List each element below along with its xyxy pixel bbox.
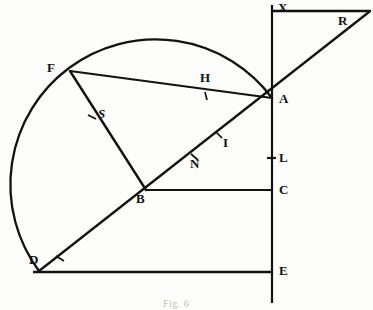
point-label-a: A <box>279 92 289 105</box>
point-label-r: R <box>338 14 348 27</box>
point-label-b: B <box>136 192 145 205</box>
point-label-h: H <box>200 71 210 84</box>
point-label-f: F <box>47 61 55 74</box>
chord-fa-line <box>70 71 272 98</box>
chord-fb-line <box>70 71 146 190</box>
geometric-figure: X R F A S H I N L B C D E Fig. 6 <box>0 0 373 310</box>
point-label-e: E <box>279 264 288 277</box>
tick-s-mark <box>88 115 96 119</box>
main-diagonal-line <box>39 12 369 271</box>
point-label-n: N <box>190 157 200 170</box>
figure-drawing-canvas <box>0 0 373 310</box>
tick-i-mark <box>216 132 222 138</box>
point-label-i: I <box>223 136 228 149</box>
point-label-d: D <box>29 253 39 266</box>
point-label-s: S <box>98 107 106 120</box>
tick-h-mark <box>205 92 207 100</box>
point-label-x: X <box>278 1 288 14</box>
tick-d-mid-mark <box>56 256 64 261</box>
point-label-c: C <box>279 183 289 196</box>
figure-caption: Fig. 6 <box>163 298 189 309</box>
point-label-l: L <box>279 151 288 164</box>
